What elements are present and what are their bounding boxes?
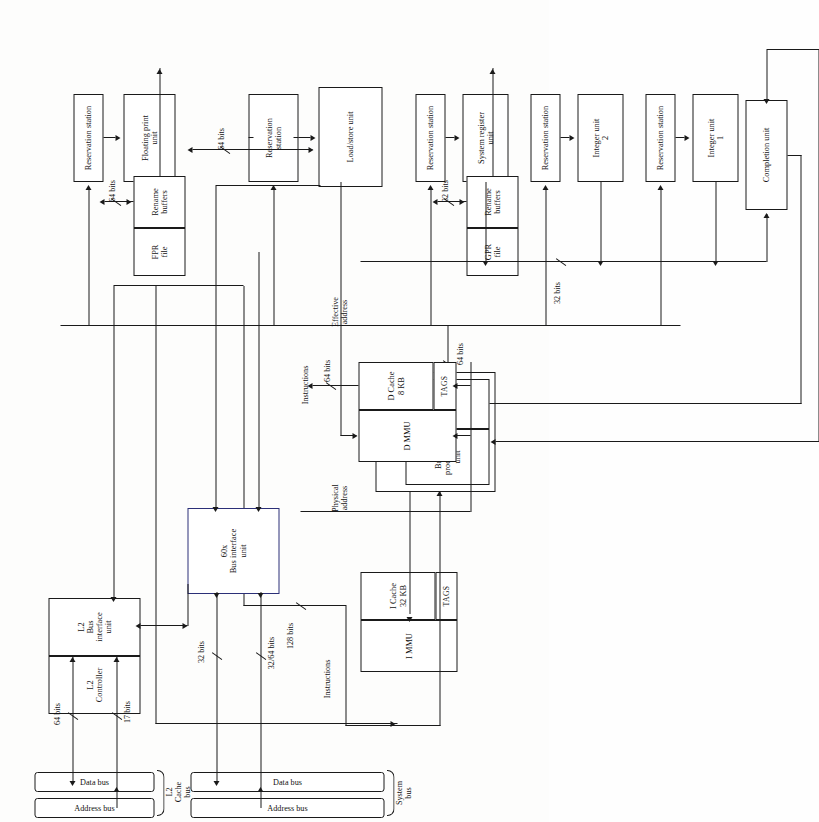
block-reservation-station-iu2: Reservation station xyxy=(530,94,560,182)
line-lsu-to-fprrename xyxy=(192,149,312,150)
block-integer-unit-2: Integer unit 2 xyxy=(577,94,623,182)
line-fpr-rename-out xyxy=(159,68,160,176)
block-reservation-station-fp: Reservation station xyxy=(73,94,103,182)
arrowhead-lsu-fprrename-up xyxy=(187,147,192,153)
line-sys-data xyxy=(216,592,217,782)
integer-unit-1-label: Integer unit 1 xyxy=(706,119,724,158)
bus-slash-64-dcache xyxy=(325,382,336,390)
block-gpr-rename-buffers: Rename buffers xyxy=(466,176,518,228)
completion-unit-label: Completion unit xyxy=(761,128,770,183)
label-physical-address: Physical address xyxy=(330,468,348,528)
arrowhead-immu xyxy=(406,617,412,622)
line-completion-fb2-in xyxy=(766,50,767,100)
arrowhead-tap-iu2 xyxy=(597,261,603,266)
bus-slash-32-completion xyxy=(555,258,566,266)
label-32-bits-gpr: 32 bits xyxy=(440,180,449,226)
rs-lsu-tick-top xyxy=(248,137,253,138)
bus-interface-unit-60x-label: 60x Bus interface unit xyxy=(219,529,246,573)
line-spine-to-rs-lsu xyxy=(273,190,274,326)
fpr-rename-buffers-label: Rename buffers xyxy=(150,188,168,215)
block-reservation-station-iu1: Reservation station xyxy=(645,94,675,182)
line-tap-iu2 xyxy=(600,182,601,262)
line-rs-iu2-to-iu2 xyxy=(560,137,569,138)
brace-system-bus xyxy=(386,770,394,816)
arrowhead-sys-data-out xyxy=(213,593,219,598)
line-sys-address xyxy=(260,592,261,808)
line-rs-fp-to-fpu-v xyxy=(103,137,115,138)
line-icache-feed-h xyxy=(155,286,156,724)
label-l2-cache-bus: L2 Cache bus xyxy=(164,768,192,816)
fpr-file-label: FPR file xyxy=(150,245,168,260)
l2-address-bus-label: Address bus xyxy=(74,804,114,813)
rs-lsu-tick-bottom xyxy=(293,137,298,138)
line-completion-fb-v xyxy=(787,155,801,156)
arrowhead-dmmu-bottom-1 xyxy=(452,433,457,439)
block-60x-bus-interface-unit: 60x Bus interface unit xyxy=(187,508,279,594)
line-icache-up xyxy=(243,605,346,606)
block-reservation-station-lsu: Reservation station xyxy=(248,94,298,182)
line-lsu-to-60x xyxy=(215,186,216,508)
pipe-l2-address-bus: Address bus xyxy=(34,798,154,818)
arrowhead-dcache-64 xyxy=(307,383,312,389)
i-cache-tags-label: TAGS xyxy=(442,586,450,607)
line-completion-fb-up xyxy=(489,403,801,404)
line-spine-to-rs-iu1 xyxy=(660,190,661,326)
arrowhead-iu1 xyxy=(684,135,689,141)
arrowhead-rs-sr xyxy=(427,185,433,190)
arrowhead-l2-60x-up xyxy=(135,623,140,629)
line-icache-feed xyxy=(155,723,397,724)
label-32-64-bits-sys: 32/64 bits xyxy=(266,624,275,682)
arrowhead-fpr-up xyxy=(99,199,104,205)
arrowhead-cache-to-60x xyxy=(255,507,261,512)
label-32-bits-sys: 32 bits xyxy=(196,628,205,676)
label-32-bits-completion: 32 bits xyxy=(552,270,561,316)
line-gpr-rename-out xyxy=(492,68,493,176)
line-rs-lsu-to-lsu xyxy=(298,137,310,138)
line-completion-in xyxy=(766,214,767,262)
line-spine-to-rs-sr xyxy=(430,190,431,326)
line-l2-data xyxy=(72,656,73,782)
line-dmmu-bottom-v2 xyxy=(456,385,470,386)
arrowhead-lsu-fprrename-down xyxy=(308,147,313,153)
line-instr-feedback-h-bot xyxy=(439,492,440,726)
arrowhead-fpr-down xyxy=(126,199,131,205)
label-64-bits-l2: 64 bits xyxy=(52,690,61,738)
line-spine-to-rs-fp xyxy=(88,190,89,326)
block-system-register-unit: System register unit xyxy=(462,94,508,182)
line-tap-iu1 xyxy=(715,182,716,262)
arrowhead-rs-iu1 xyxy=(657,185,663,190)
line-main-to-l2-h xyxy=(113,286,114,598)
arrowhead-instruction-unit xyxy=(436,491,442,496)
arrowhead-gpr-down xyxy=(459,199,464,205)
load-store-unit-label: Load/store unit xyxy=(345,112,354,163)
line-completion-fb2-up xyxy=(495,441,819,442)
block-d-mmu: D MMU xyxy=(358,410,456,462)
l2-data-bus-label: Data bus xyxy=(80,778,109,787)
block-i-mmu: I MMU xyxy=(360,620,457,672)
l2-bus-interface-unit-label: L2 Bus interface unit xyxy=(76,612,112,641)
arrowhead-completion-fb2 xyxy=(763,99,769,104)
block-gpr-file: GPR file xyxy=(466,228,518,276)
label-64-bits-dcache: 64 bits xyxy=(322,336,331,382)
arrowhead-lsu xyxy=(310,135,315,141)
arrowhead-sru xyxy=(454,135,459,141)
line-rs-iu1-to-iu1 xyxy=(675,137,684,138)
arrowhead-icache-feed xyxy=(390,721,395,727)
line-lsu-to-60x-v xyxy=(215,185,320,186)
line-dmmu-bottom-v1 xyxy=(456,435,470,436)
label-64-bits-lsu: 64 bits xyxy=(216,128,225,174)
integer-unit-2-label: Integer unit 2 xyxy=(591,119,609,158)
block-i-cache-tags: TAGS xyxy=(435,572,457,620)
reservation-station-iu1-label: Reservation station xyxy=(655,106,664,170)
brace-l2-cache-bus xyxy=(156,770,164,816)
line-dmmu-bottom-up xyxy=(300,511,470,512)
arrowhead-completion-fb2-up xyxy=(490,439,495,445)
l2-controller-label: L2 Controller xyxy=(85,668,103,702)
system-register-unit-label: System register unit xyxy=(476,112,494,164)
reservation-station-sr-label: Reservation station xyxy=(425,106,434,170)
pipe-l2-data-bus: Data bus xyxy=(34,772,154,792)
arrowhead-fpu xyxy=(115,135,120,141)
line-l2-60x-vert xyxy=(140,625,187,626)
